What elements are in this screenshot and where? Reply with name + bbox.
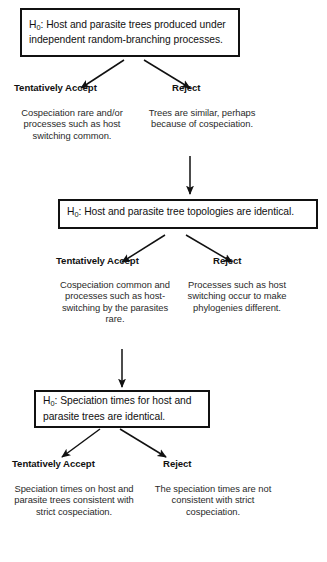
hypothesis-box-stage-3: H0: Speciation times for host and parasi… bbox=[34, 390, 210, 428]
stage-2-accept-heading: Tentatively Accept bbox=[56, 255, 139, 266]
stage-1-reject-body: Trees are similar, perhaps because of co… bbox=[142, 107, 262, 130]
flowchart-canvas: H0: Host and parasite trees produced und… bbox=[0, 0, 327, 562]
hypothesis-statement: : Host and parasite trees produced under… bbox=[29, 19, 226, 45]
stage-1-reject-heading: Reject bbox=[172, 82, 201, 93]
stage-2-reject-heading: Reject bbox=[213, 255, 242, 266]
arrow-stage3-reject bbox=[120, 429, 166, 457]
stage-3-reject-heading: Reject bbox=[163, 458, 192, 469]
stage-3-reject-body: The speciation times are not consistent … bbox=[146, 483, 280, 517]
stage-2-accept-body: Cospeciation common and processes such a… bbox=[53, 279, 177, 325]
stage-2-reject-body: Processes such as host switching occur t… bbox=[182, 279, 292, 313]
stage-1-accept-heading: Tentatively Accept bbox=[14, 82, 97, 93]
hypothesis-statement: : Host and parasite tree topologies are … bbox=[79, 206, 295, 217]
hypothesis-box-stage-1: H0: Host and parasite trees produced und… bbox=[20, 8, 240, 57]
hypothesis-text-stage-1: H0: Host and parasite trees produced und… bbox=[29, 19, 231, 47]
hypothesis-statement: : Speciation times for host and parasite… bbox=[43, 395, 191, 421]
stage-1-accept-body: Cospeciation rare and/or processes such … bbox=[6, 107, 138, 141]
hypothesis-text-stage-3: H0: Speciation times for host and parasi… bbox=[43, 395, 201, 423]
hypothesis-text-stage-2: H0: Host and parasite tree topologies ar… bbox=[67, 206, 294, 221]
hypothesis-box-stage-2: H0: Host and parasite tree topologies ar… bbox=[58, 199, 318, 229]
arrow-stage3-accept bbox=[62, 429, 100, 457]
stage-3-accept-body: Speciation times on host and parasite tr… bbox=[6, 483, 142, 517]
stage-3-accept-heading: Tentatively Accept bbox=[12, 458, 95, 469]
